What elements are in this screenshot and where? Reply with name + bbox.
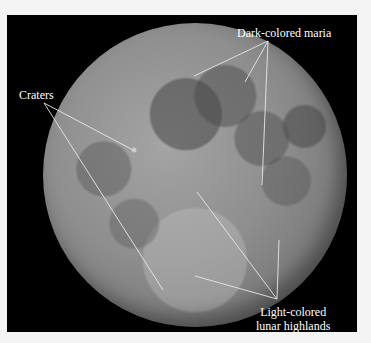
label-craters: Craters xyxy=(19,88,54,102)
figure-frame xyxy=(7,15,357,332)
label-highlands-line2: lunar highlands xyxy=(256,319,330,333)
label-highlands-line1: Light-colored xyxy=(256,305,330,319)
label-dark-colored-maria: Dark-colored maria xyxy=(237,26,331,40)
moon-image xyxy=(43,23,347,327)
label-lunar-highlands: Light-colored lunar highlands xyxy=(256,305,330,333)
